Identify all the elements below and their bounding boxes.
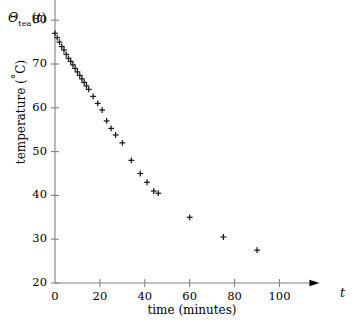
data-point — [119, 140, 125, 146]
plot-area — [0, 0, 356, 329]
chart-svg — [0, 0, 356, 329]
y-axis-tick-label: 40 — [15, 189, 47, 201]
data-point — [113, 132, 119, 138]
x-axis-tick-label: 100 — [260, 291, 300, 303]
y-axis-tick-label: 80 — [15, 14, 47, 26]
data-point — [144, 179, 150, 185]
x-axis-title: time (minutes) — [0, 304, 356, 316]
data-point — [90, 94, 96, 100]
y-axis-tick-label: 60 — [15, 102, 47, 114]
chart-page: Θtea(t) t time (minutes) temperature (°C… — [0, 0, 356, 329]
x-axis-tick-label: 0 — [35, 291, 75, 303]
y-axis-tick-label: 70 — [15, 58, 47, 70]
data-point — [128, 157, 134, 163]
x-axis-tick-label: 60 — [170, 291, 210, 303]
data-series-group — [52, 30, 260, 253]
data-point — [254, 247, 260, 253]
data-point — [187, 214, 193, 220]
y-axis-tick-label: 30 — [15, 233, 47, 245]
x-axis-variable: t — [340, 287, 345, 300]
data-point — [220, 234, 226, 240]
x-axis-tick-label: 80 — [215, 291, 255, 303]
data-point — [137, 171, 143, 177]
data-point — [95, 101, 101, 107]
x-axis-tick-label: 20 — [80, 291, 120, 303]
data-point — [99, 107, 105, 113]
y-axis-tick-label: 50 — [15, 146, 47, 158]
data-point — [104, 118, 110, 124]
x-axis-arrowhead — [309, 280, 319, 286]
data-point — [108, 125, 114, 131]
y-axis-tick-label: 20 — [15, 277, 47, 289]
x-axis-title-text: time (minutes) — [147, 304, 236, 316]
x-axis-tick-label: 40 — [125, 291, 165, 303]
